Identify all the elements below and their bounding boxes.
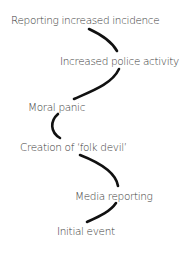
node-media-reporting: Media reporting — [75, 190, 153, 202]
node-initial-event: Initial event — [57, 225, 115, 237]
node-reporting-increased-incidence: Reporting increased incidence — [11, 14, 159, 26]
node-increased-police-activity: Increased police activity — [60, 55, 179, 67]
connector-reporting-to-police — [89, 29, 117, 51]
connector-moral-panic-to-folk-devil — [52, 114, 60, 138]
connector-police-to-moral-panic — [74, 69, 119, 99]
connector-folk-devil-to-media — [80, 155, 118, 186]
connector-media-to-initial-event — [87, 203, 116, 222]
connector-lines — [0, 0, 191, 253]
node-moral-panic: Moral panic — [28, 101, 85, 113]
moral-panic-diagram: Reporting increased incidence Increased … — [0, 0, 191, 253]
node-creation-of-folk-devil: Creation of ‘folk devil’ — [20, 141, 127, 153]
